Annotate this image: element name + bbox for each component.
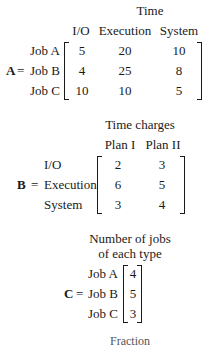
matrix-b-row-label: System	[44, 198, 82, 211]
matrix-c-row-label: Job A	[80, 267, 118, 280]
matrix-cell: 8	[165, 64, 193, 77]
matrix-cell: 3	[152, 158, 172, 171]
matrix-cell: 4	[70, 64, 94, 77]
matrix-cell: 4	[152, 198, 172, 211]
matrix-b-row-label: Execution	[44, 178, 97, 191]
matrix-cell: 3	[126, 307, 140, 320]
matrix-b-col-plan2: Plan II	[143, 138, 183, 151]
matrix-cell: 10	[165, 44, 193, 57]
matrix-a-col-system: System	[158, 24, 200, 37]
matrix-b-col-plan1: Plan I	[102, 138, 138, 151]
matrix-c-row-label: Job C	[80, 307, 118, 320]
matrix-cell: 25	[110, 64, 140, 77]
matrix-b-row-label: I/O	[44, 158, 61, 171]
left-bracket	[64, 42, 69, 100]
matrix-cell: 5	[126, 287, 140, 300]
matrix-cell: 6	[108, 178, 128, 191]
matrix-c-header-line2: of each type	[85, 247, 175, 260]
matrix-a-col-execution: Execution	[98, 24, 152, 37]
matrix-cell: 3	[108, 198, 128, 211]
matrix-cell: 4	[126, 267, 140, 280]
equals-sign: =	[17, 64, 24, 77]
matrix-cell: 10	[110, 84, 140, 97]
right-bracket	[180, 156, 185, 214]
matrix-cell: 5	[152, 178, 172, 191]
matrix-cell: 5	[165, 84, 193, 97]
matrix-c-name: C	[64, 287, 73, 300]
matrix-a-header: Time	[110, 4, 190, 17]
matrix-cell: 2	[108, 158, 128, 171]
matrix-cell: 5	[70, 44, 94, 57]
matrix-cell: 10	[70, 84, 94, 97]
right-bracket	[197, 42, 202, 100]
left-bracket	[97, 156, 102, 214]
matrix-a-col-io: I/O	[67, 24, 95, 37]
matrix-c-row-label: Job B	[80, 287, 118, 300]
matrix-a-row-label: Job C	[20, 84, 60, 97]
matrix-c-header-line1: Number of jobs	[85, 232, 175, 245]
matrix-a-row-label: Job A	[20, 44, 60, 57]
matrix-b-name: B	[17, 178, 26, 191]
equals-sign: =	[31, 178, 38, 191]
matrix-b-header: Time charges	[95, 118, 185, 131]
equals-sign: =	[76, 287, 83, 300]
matrix-a-name: A	[6, 64, 15, 77]
matrix-a-row-label: Job B	[20, 64, 60, 77]
matrix-cell: 20	[110, 44, 140, 57]
cutoff-heading: Fraction	[95, 335, 165, 347]
